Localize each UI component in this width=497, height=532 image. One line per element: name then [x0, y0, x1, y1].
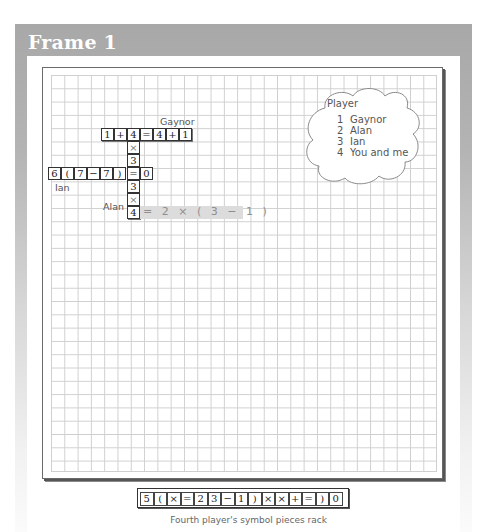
board-tile: =: [127, 167, 140, 180]
rack-tile[interactable]: 0: [329, 492, 343, 506]
legend-item-number: 1: [337, 114, 350, 125]
rack-tile[interactable]: =: [181, 492, 195, 506]
legend-item: 4 You and me: [337, 147, 408, 158]
symbol-pieces-rack: 5 ( × = 2 3 − 1 ) × × + = ) 0: [137, 488, 349, 508]
board-tile: 1: [179, 128, 192, 141]
rack-caption: Fourth player's symbol pieces rack: [0, 515, 497, 525]
label-gaynor: Gaynor: [160, 116, 195, 127]
rack-tile[interactable]: ×: [167, 492, 181, 506]
legend-item: 1 Gaynor: [337, 114, 408, 125]
player-legend: Player 1 Gaynor 2 Alan 3 Ian 4 You and m…: [327, 98, 408, 158]
frame-title: Frame 1: [28, 28, 117, 56]
board-tile: 7: [74, 167, 87, 180]
rack-tile[interactable]: −: [221, 492, 235, 506]
rack-tile[interactable]: ): [316, 492, 330, 506]
label-ian: Ian: [55, 182, 70, 193]
legend-item-number: 4: [337, 147, 350, 158]
rack-tile[interactable]: 1: [235, 492, 249, 506]
legend-item-number: 3: [337, 136, 350, 147]
board-tile: +: [166, 128, 179, 141]
legend-item-name: Ian: [350, 136, 365, 147]
rack-tile[interactable]: 3: [208, 492, 222, 506]
board-tile: 6: [48, 167, 61, 180]
board-tile: =: [140, 128, 153, 141]
board-tile: 0: [140, 167, 153, 180]
legend-item: 2 Alan: [337, 125, 408, 136]
board-tile: 4: [127, 206, 140, 219]
rack-tile[interactable]: 5: [140, 492, 154, 506]
rack-tile[interactable]: ×: [275, 492, 289, 506]
rack-tile[interactable]: 2: [194, 492, 208, 506]
board-tile: ×: [127, 193, 140, 206]
rack-tile[interactable]: ): [248, 492, 262, 506]
legend-item-name: Gaynor: [350, 114, 386, 125]
legend-item-name: You and me: [350, 147, 408, 158]
label-alan: Alan: [103, 201, 124, 212]
board-tile: 4: [153, 128, 166, 141]
board-tile: (: [61, 167, 74, 180]
board-tile: 4: [127, 128, 140, 141]
proposed-move-text: = 2 × ( 3 − 1 ): [143, 205, 270, 218]
legend-item: 3 Ian: [337, 136, 408, 147]
board-tile: 3: [127, 154, 140, 167]
legend-item-name: Alan: [350, 125, 372, 136]
rack-tile[interactable]: ×: [262, 492, 276, 506]
board-tile: +: [114, 128, 127, 141]
board-tile: ×: [127, 141, 140, 154]
board-tile: 1: [101, 128, 114, 141]
board-tile: 7: [100, 167, 113, 180]
board-tile: −: [87, 167, 100, 180]
board-tile: ): [113, 167, 126, 180]
board-tile: 3: [127, 180, 140, 193]
rack-tile[interactable]: =: [302, 492, 316, 506]
legend-title: Player: [327, 98, 408, 109]
legend-item-number: 2: [337, 125, 350, 136]
rack-tile[interactable]: +: [289, 492, 303, 506]
rack-tile[interactable]: (: [154, 492, 168, 506]
